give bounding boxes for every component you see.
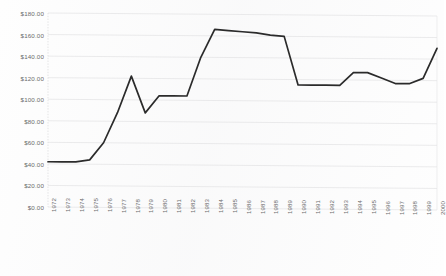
gridline-horizontal <box>48 207 437 210</box>
gridline-horizontal <box>48 13 437 16</box>
gridline-horizontal <box>48 78 437 81</box>
gridline-horizontal <box>48 56 437 59</box>
gridlines <box>48 13 437 210</box>
gridline-horizontal <box>48 164 437 167</box>
gridline-horizontal <box>48 121 437 124</box>
gridline-horizontal <box>48 35 437 38</box>
gridline-horizontal <box>48 142 437 145</box>
gridline-horizontal <box>48 185 437 188</box>
axis-lines <box>48 13 437 210</box>
data-series-line <box>48 29 437 162</box>
gridline-horizontal <box>48 99 437 102</box>
